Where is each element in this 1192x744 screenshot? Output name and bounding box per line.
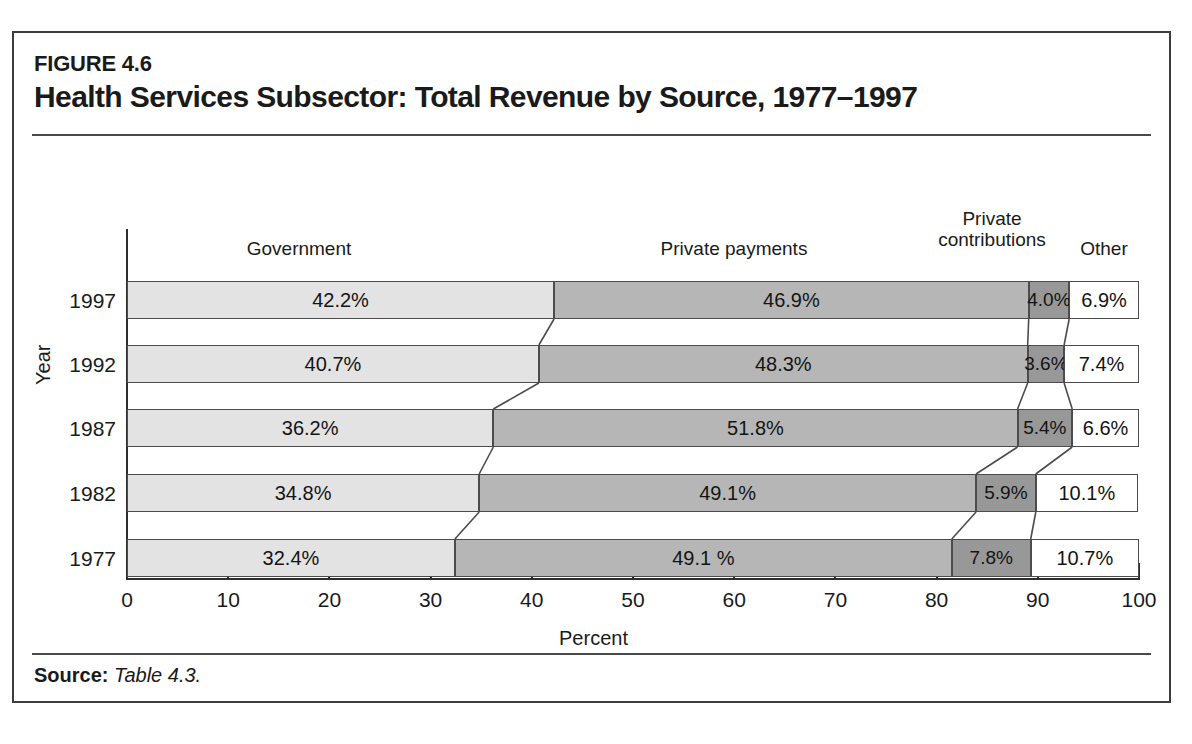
bar-segment-gov: 32.4% [127, 539, 455, 577]
column-header-private-contributions-line2: contributions [938, 229, 1046, 250]
bar-segment-other: 10.7% [1031, 539, 1139, 577]
bar-segment-pc: 5.9% [976, 474, 1036, 512]
connector-line [976, 447, 1017, 474]
source-note: Source: Table 4.3. [34, 664, 201, 687]
connector-line [493, 383, 539, 409]
bar-row: 42.2%46.9%4.0%6.9% [127, 281, 1139, 319]
x-tick-label: 80 [925, 588, 948, 612]
y-axis-title: Year [32, 345, 55, 385]
bar-segment-other: 6.6% [1072, 409, 1139, 447]
x-tick-label: 0 [121, 588, 133, 612]
x-tick-label: 30 [419, 588, 442, 612]
bar-segment-gov: 42.2% [127, 281, 554, 319]
bar-segment-pp: 46.9% [554, 281, 1029, 319]
connector-line [455, 512, 479, 539]
bar-row: 32.4%49.1 %7.8%10.7% [127, 539, 1139, 577]
figure-frame: FIGURE 4.6 Health Services Subsector: To… [12, 31, 1171, 703]
year-axis-label: 1992 [54, 353, 116, 377]
bar-segment-pp: 49.1 % [455, 539, 952, 577]
connector-line [1036, 447, 1072, 474]
bar-segment-other: 7.4% [1064, 345, 1139, 383]
x-tick-label: 10 [217, 588, 240, 612]
x-tick-label: 50 [621, 588, 644, 612]
bar-segment-pc: 7.8% [952, 539, 1031, 577]
bar-segment-gov: 40.7% [127, 345, 539, 383]
source-label: Source: [34, 664, 108, 686]
x-tick-label: 60 [723, 588, 746, 612]
bar-segment-other: 10.1% [1036, 474, 1138, 512]
column-header-private-contributions-line1: Private [962, 208, 1021, 229]
year-axis-label: 1982 [54, 482, 116, 506]
bar-row: 36.2%51.8%5.4%6.6% [127, 409, 1139, 447]
bar-segment-pp: 49.1% [479, 474, 976, 512]
column-header-other: Other [1064, 239, 1144, 260]
x-tick-label: 90 [1026, 588, 1049, 612]
bar-segment-pc: 4.0% [1029, 281, 1069, 319]
chart-plot-area: Government Private payments Private cont… [14, 33, 1173, 705]
x-tick-label: 100 [1121, 588, 1156, 612]
connector-line [1018, 383, 1028, 409]
column-header-private-contributions: Private contributions [902, 209, 1082, 250]
year-axis-label: 1997 [54, 289, 116, 313]
x-axis-title: Percent [14, 627, 1173, 650]
bar-segment-pc: 5.4% [1018, 409, 1073, 447]
source-divider [32, 653, 1151, 655]
column-header-private-payments: Private payments [584, 239, 884, 260]
year-axis-label: 1987 [54, 417, 116, 441]
x-tick-label: 20 [318, 588, 341, 612]
year-axis-label: 1977 [54, 547, 116, 571]
source-reference: Table 4.3. [114, 664, 201, 686]
bar-segment-pc: 3.6% [1028, 345, 1064, 383]
connector-line [1064, 383, 1072, 409]
bar-segment-pp: 51.8% [493, 409, 1017, 447]
connector-line [479, 447, 493, 474]
x-tick-label: 70 [824, 588, 847, 612]
x-tick-label: 40 [520, 588, 543, 612]
connector-line [952, 512, 976, 539]
column-header-government: Government [174, 239, 424, 260]
bar-row: 34.8%49.1%5.9%10.1% [127, 474, 1139, 512]
bar-segment-other: 6.9% [1069, 281, 1139, 319]
connector-line [1031, 512, 1036, 539]
bar-segment-gov: 34.8% [127, 474, 479, 512]
bar-segment-gov: 36.2% [127, 409, 493, 447]
bar-row: 40.7%48.3%3.6%7.4% [127, 345, 1139, 383]
bar-segment-pp: 48.3% [539, 345, 1028, 383]
connector-line [1064, 319, 1069, 345]
connector-line [1028, 319, 1029, 345]
connector-line [539, 319, 554, 345]
